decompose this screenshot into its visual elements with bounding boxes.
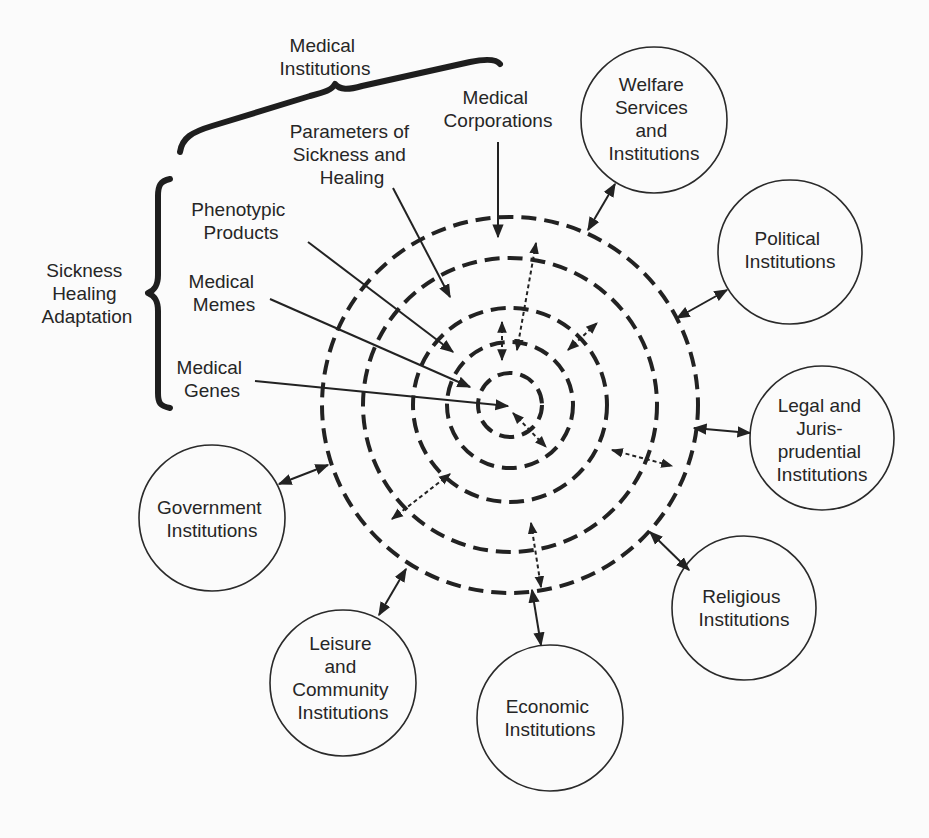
sickness-healing-adaptation-label: Sickness Healing Adaptation: [42, 260, 133, 327]
institution-legal: Legal and Juris- prudential Institutions: [694, 366, 894, 510]
svg-text:Parameters of Sickness a: Parameters of Sickness and Healing: [290, 121, 415, 188]
svg-text:Welfare Services a: Welfare Services and Institutions: [609, 74, 700, 164]
religious-circle: [672, 536, 816, 680]
svg-text:Economic Institutions: Economic Institutions: [505, 696, 596, 740]
ring-phenotypic-products: [413, 308, 607, 502]
svg-text:Medical Memes: Medical Memes: [189, 271, 260, 315]
label-medical-corporations: Medical Corporations: [444, 87, 553, 237]
ring-parameters-of-sickness: [363, 258, 657, 552]
dotted-arrow-5: [612, 450, 672, 466]
inter-ring-interactions: [392, 243, 672, 587]
medical-institutions-diagram: Medical Institutions Sickness Healing Ad…: [0, 0, 929, 838]
institution-welfare: Welfare Services and Institutions: [581, 47, 727, 230]
ring-medical-corporations: [322, 217, 698, 593]
institution-religious: Religious Institutions: [650, 532, 816, 680]
political-connector: [677, 290, 727, 318]
svg-text:Legal and Juris- p: Legal and Juris- prudential Institutions: [777, 395, 868, 485]
institution-economic: Economic Institutions: [477, 590, 623, 791]
svg-text:Government Institutions: Government Institutions: [157, 497, 267, 541]
svg-text:Medical Genes: Medical Genes: [177, 357, 248, 401]
svg-text:Political Institutions: Political Institutions: [745, 228, 836, 272]
economic-circle: [477, 645, 623, 791]
ring-medical-memes: [447, 342, 573, 468]
label-parameters-of-sickness-and-healing: Parameters of Sickness and Healing: [290, 121, 450, 297]
dotted-arrow-3: [568, 323, 597, 350]
institution-government: Government Institutions: [139, 445, 328, 591]
medical-institutions-label: Medical Institutions: [280, 35, 371, 79]
arrow-parameters: [393, 188, 450, 297]
svg-text:Phenotypic Products: Phenotypic Products: [191, 199, 290, 243]
svg-text:Medical Corporations: Medical Corporations: [444, 87, 553, 131]
concentric-rings: [322, 217, 698, 593]
institution-leisure: Leisure and Community Institutions: [270, 569, 416, 756]
government-connector: [279, 465, 328, 484]
welfare-connector: [588, 184, 615, 230]
religious-connector: [650, 532, 689, 570]
arrow-medical-genes: [255, 381, 508, 406]
leisure-connector: [379, 569, 406, 615]
sickness-healing-adaptation-brace: [148, 179, 170, 408]
svg-text:Leisure and Commun: Leisure and Community Institutions: [292, 633, 393, 723]
legal-connector: [694, 428, 750, 433]
institution-political: Political Institutions: [677, 180, 862, 324]
economic-connector: [532, 590, 541, 645]
ring-medical-genes: [478, 373, 542, 437]
government-circle: [139, 445, 285, 591]
dotted-arrow-6: [392, 474, 450, 519]
dotted-arrow-7: [531, 523, 541, 587]
svg-text:Religious Institutions: Religious Institutions: [699, 586, 790, 630]
